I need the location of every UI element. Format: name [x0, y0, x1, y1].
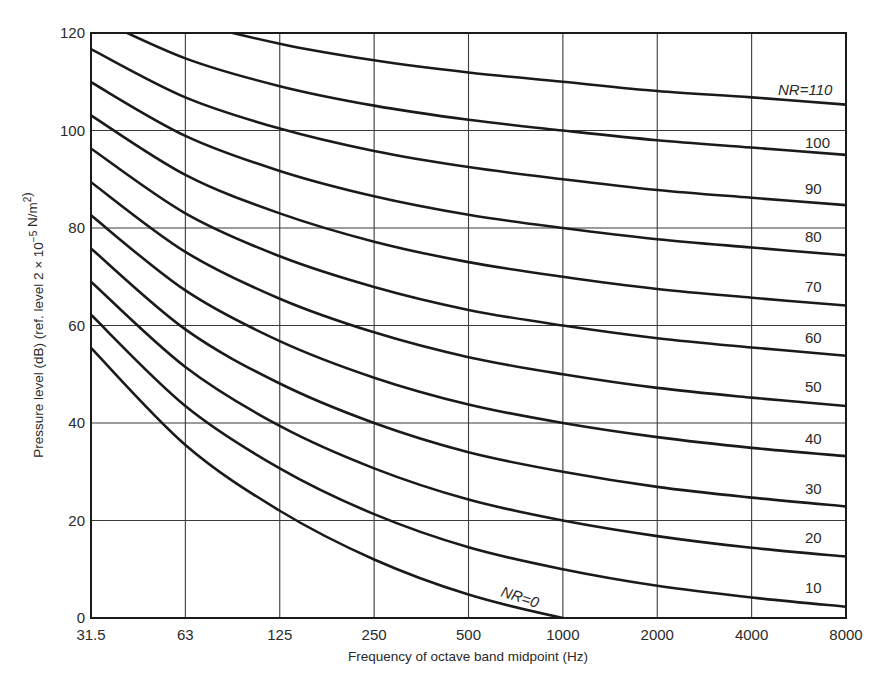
x-tick-label: 250	[362, 626, 387, 643]
nr-curves-chart: 020406080100120 31.563125250500100020004…	[0, 0, 883, 692]
y-axis-label: Pressure level (dB) (ref. level 2 × 10−5…	[19, 192, 46, 458]
x-axis-ticks: 31.5631252505001000200040008000	[76, 626, 862, 643]
curve-labels: NR=0102030405060708090100NR=110	[499, 81, 833, 611]
curve-label: 50	[805, 378, 822, 395]
y-tick-label: 20	[68, 512, 85, 529]
curve-label: 10	[805, 579, 822, 596]
y-tick-label: 100	[60, 122, 85, 139]
curve-label: 20	[805, 529, 822, 546]
x-axis-label: Frequency of octave band midpoint (Hz)	[348, 649, 588, 664]
x-tick-label: 2000	[641, 626, 674, 643]
curve-label: 30	[805, 480, 822, 497]
x-tick-label: 125	[267, 626, 292, 643]
x-tick-label: 8000	[829, 626, 862, 643]
curve-label: NR=0	[499, 583, 542, 611]
y-tick-label: 60	[68, 317, 85, 334]
curve-label: 40	[805, 430, 822, 447]
y-tick-label: 0	[77, 609, 85, 626]
curve-label: 100	[805, 134, 830, 151]
x-tick-label: 4000	[735, 626, 768, 643]
curve-label: 70	[805, 278, 822, 295]
x-tick-label: 1000	[546, 626, 579, 643]
curve-label: 90	[805, 180, 822, 197]
y-tick-label: 120	[60, 24, 85, 41]
curve-label: 80	[805, 228, 822, 245]
y-axis-ticks: 020406080100120	[60, 24, 85, 626]
curve-label: NR=110	[778, 81, 833, 98]
x-tick-label: 63	[177, 626, 194, 643]
curve-label: 60	[805, 329, 822, 346]
x-tick-label: 500	[456, 626, 481, 643]
x-tick-label: 31.5	[76, 626, 105, 643]
y-tick-label: 80	[68, 219, 85, 236]
y-tick-label: 40	[68, 414, 85, 431]
